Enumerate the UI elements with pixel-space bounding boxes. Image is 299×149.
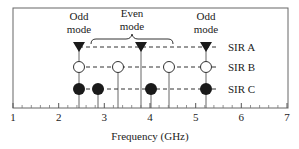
annotation-odd-mode-right-l2: mode	[194, 23, 219, 35]
x-axis-major-ticks	[13, 103, 287, 108]
open-circle-marker	[113, 62, 124, 73]
row-label-sir-c: SIR C	[228, 83, 255, 95]
open-circle-marker	[164, 62, 175, 73]
filled-circle-marker	[92, 83, 104, 95]
filled-circle-marker	[145, 83, 157, 95]
filled-circle-marker	[200, 83, 212, 95]
x-tick-label: 3	[102, 111, 108, 123]
vertical-stems	[79, 47, 206, 108]
even-mode-brace	[91, 34, 173, 44]
x-tick-label: 6	[239, 111, 245, 123]
row-label-sir-b: SIR B	[228, 61, 255, 73]
annotation-odd-mode-right-l1: Odd	[197, 10, 216, 22]
annotation-odd-mode-left-l1: Odd	[70, 10, 89, 22]
x-tick-label: 7	[284, 111, 290, 123]
filled-circle-marker	[73, 83, 85, 95]
row-label-sir-a: SIR A	[228, 41, 255, 53]
open-circle-marker	[201, 62, 212, 73]
open-circle-marker	[74, 62, 85, 73]
x-tick-label: 5	[193, 111, 199, 123]
x-tick-label: 1	[10, 111, 16, 123]
x-tick-label: 2	[56, 111, 62, 123]
annotation-even-mode-l2: mode	[120, 20, 145, 32]
row-dashed-lines	[79, 47, 218, 89]
x-axis-label: Frequency (GHz)	[111, 130, 189, 143]
frequency-mode-chart: Odd mode Even mode Odd mode SIR A SIR B …	[0, 0, 299, 149]
annotation-even-mode-l1: Even	[121, 7, 144, 19]
annotation-odd-mode-left-l2: mode	[67, 23, 92, 35]
triangle-marker	[73, 42, 85, 52]
x-tick-label: 4	[147, 111, 153, 123]
